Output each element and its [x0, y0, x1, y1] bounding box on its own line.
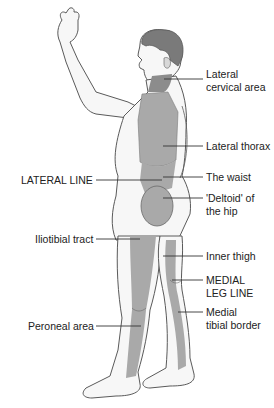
label-lateral-line: LATERAL LINE	[21, 174, 93, 187]
head	[138, 30, 183, 82]
raised-arm	[58, 8, 140, 118]
label-line-1: 'Deltoid' of	[206, 192, 254, 205]
label-iliotibial-tract: Iliotibial tract	[35, 233, 93, 246]
label-line-2: LEG LINE	[206, 287, 253, 300]
label-peroneal-area: Peroneal area	[28, 320, 94, 333]
label-inner-thigh: Inner thigh	[206, 250, 256, 263]
torso	[112, 74, 190, 240]
label-line-2: the hip	[206, 205, 254, 218]
label-medial-tibial-border: Medial tibial border	[206, 306, 261, 331]
label-line-2: cervical area	[206, 81, 266, 94]
label-line-1: MEDIAL	[206, 274, 253, 287]
label-line-1: Lateral	[206, 68, 266, 81]
label-lateral-thorax: Lateral thorax	[206, 140, 270, 153]
label-deltoid-of-hip: 'Deltoid' of the hip	[206, 192, 254, 217]
label-line-1: Medial	[206, 306, 261, 319]
legs	[83, 236, 194, 398]
label-medial-leg-line: MEDIAL LEG LINE	[206, 274, 253, 299]
label-line-2: tibial border	[206, 319, 261, 332]
label-lateral-cervical-area: Lateral cervical area	[206, 68, 266, 93]
label-waist: The waist	[206, 171, 251, 184]
